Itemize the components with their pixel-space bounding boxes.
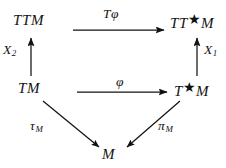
arrow-tau-m xyxy=(43,101,99,147)
arrow-label-phi-glyph: φ xyxy=(116,74,124,89)
arrow-label-pi-m: πM xyxy=(158,119,173,134)
arrow-label-tphi: Tφ xyxy=(103,7,119,21)
star-icon: ★ xyxy=(188,12,201,27)
node-tstarm: T★M xyxy=(174,81,209,99)
commutative-diagram: TTM TT★M TM T★M M Tφ φ X2 X1 τM πM xyxy=(0,0,226,168)
arrow-label-tphi-t: T xyxy=(103,6,111,21)
node-ttm-label: TTM xyxy=(13,12,44,28)
node-m: M xyxy=(102,147,115,162)
star-icon: ★ xyxy=(183,80,196,95)
arrow-label-tau-subscript: M xyxy=(35,124,42,134)
node-tstarm-head: T xyxy=(174,83,183,99)
arrow-label-x1-letter: X xyxy=(204,42,213,57)
node-ttm: TTM xyxy=(13,13,44,28)
node-ttstarm-head: TT xyxy=(170,15,188,31)
arrow-label-tau-m: τM xyxy=(30,119,43,134)
arrow-label-x1-subscript: 1 xyxy=(213,48,217,58)
arrow-label-x1: X1 xyxy=(204,43,217,58)
arrow-label-pi-subscript: M xyxy=(165,124,172,134)
node-m-label: M xyxy=(102,146,115,162)
node-ttstarm-tail: M xyxy=(201,15,214,31)
node-ttstarm: TT★M xyxy=(170,13,214,31)
arrow-label-phi: φ xyxy=(116,75,124,89)
arrow-label-x2: X2 xyxy=(3,43,16,58)
node-tstarm-tail: M xyxy=(196,83,209,99)
arrow-label-x2-letter: X xyxy=(3,42,12,57)
arrow-label-tphi-phi: φ xyxy=(111,6,119,21)
node-tm: TM xyxy=(18,81,40,96)
node-tm-label: TM xyxy=(18,80,40,96)
arrow-label-x2-subscript: 2 xyxy=(12,48,16,58)
